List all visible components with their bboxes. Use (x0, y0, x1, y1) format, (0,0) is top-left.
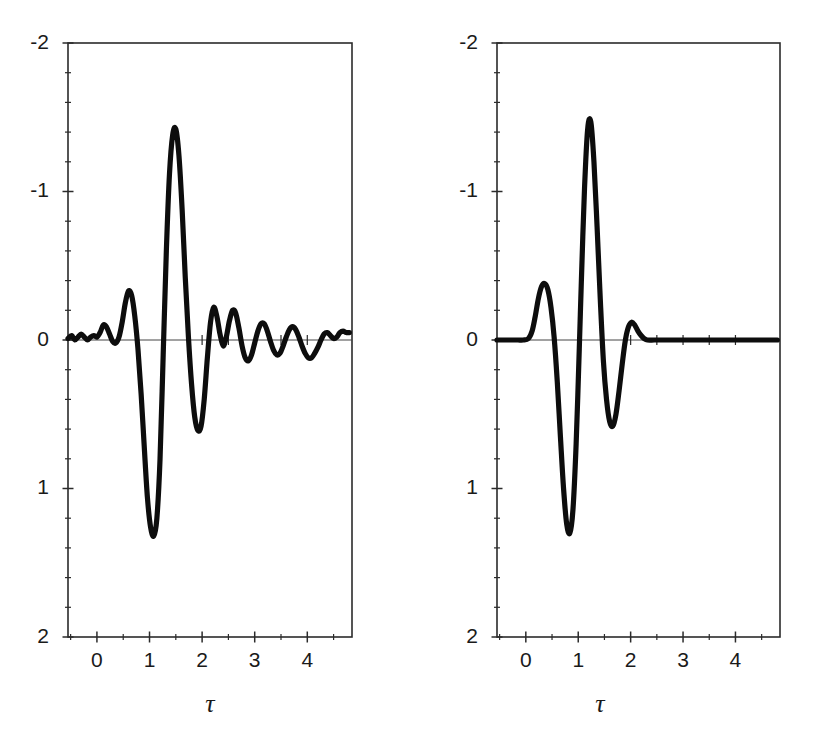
chart-panel-left: 210-1-201234 τ (0, 0, 409, 738)
right-axis-title-svg: τ (410, 0, 819, 738)
chart-panel-right: 210-1-201234 τ (410, 0, 819, 738)
figure-root: 210-1-201234 τ 210-1-201234 τ (0, 0, 819, 738)
left-axis-title-svg: τ (0, 0, 409, 738)
right-x-axis-title: τ (595, 689, 606, 718)
left-x-axis-title: τ (205, 689, 216, 718)
